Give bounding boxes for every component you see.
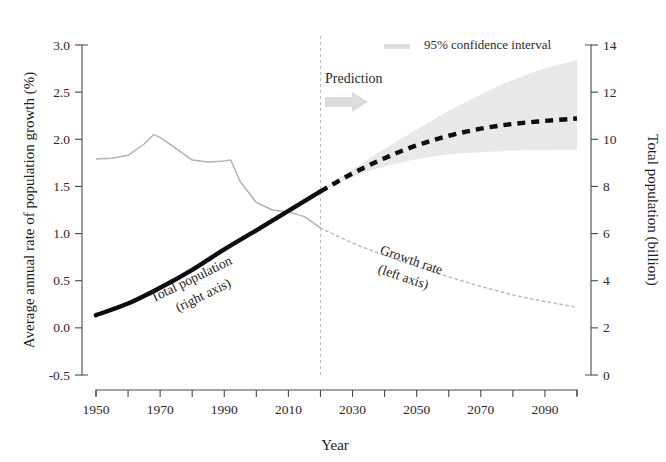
right-y-axis: 02468101214 [585, 38, 617, 383]
legend-label-confidence-interval: 95% confidence interval [424, 37, 551, 52]
right-y-axis-tick-labels: 02468101214 [603, 38, 617, 383]
right-y-tick-label: 14 [603, 38, 617, 53]
left-y-tick-label: -0.5 [49, 368, 71, 383]
right-y-axis-ticks [591, 45, 598, 375]
left-y-axis-tick-labels: -0.50.00.51.01.52.02.53.0 [49, 38, 71, 383]
left-y-tick-label: 0.5 [53, 273, 70, 288]
growth-rate-series-label: Growth rate (left axis) [376, 242, 444, 292]
left-y-axis: -0.50.00.51.01.52.02.53.0 [49, 38, 88, 383]
x-tick-label: 2090 [531, 402, 558, 417]
right-y-tick-label: 6 [603, 226, 610, 241]
total-population-series-label: Total population (right axis) [148, 253, 234, 315]
legend: 95% confidence interval [384, 37, 551, 52]
y2-axis-title: Total population (billion) [644, 134, 661, 285]
prediction-label: Prediction [325, 71, 383, 86]
right-y-tick-label: 2 [603, 320, 610, 335]
prediction-annotation: Prediction [325, 71, 383, 112]
x-tick-label: 2050 [403, 402, 430, 417]
right-y-tick-label: 10 [603, 132, 617, 147]
chart-canvas: -0.50.00.51.01.52.02.53.0 02468101214 19… [0, 0, 666, 462]
x-axis-tick-labels: 19501970199020102030205020702090 [83, 402, 559, 417]
left-y-tick-label: 1.0 [53, 226, 70, 241]
left-y-tick-label: 3.0 [53, 38, 70, 53]
x-tick-label: 1950 [83, 402, 110, 417]
x-tick-label: 2030 [339, 402, 366, 417]
left-y-tick-label: 2.0 [53, 132, 70, 147]
x-tick-label: 2010 [275, 402, 302, 417]
growth-rate-projected-line [320, 228, 577, 307]
population-growth-chart: -0.50.00.51.01.52.02.53.0 02468101214 19… [0, 0, 666, 462]
x-tick-label: 1970 [147, 402, 174, 417]
left-y-tick-label: 1.5 [53, 179, 70, 194]
prediction-arrow-icon [325, 92, 368, 112]
x-tick-label: 1990 [211, 402, 238, 417]
x-axis: 19501970199020102030205020702090 [83, 390, 578, 417]
x-axis-title: Year [321, 437, 349, 453]
left-y-tick-label: 0.0 [53, 320, 70, 335]
x-axis-ticks [96, 390, 577, 397]
legend-swatch-confidence-interval [384, 44, 410, 49]
right-y-tick-label: 8 [603, 179, 610, 194]
right-y-tick-label: 0 [603, 368, 610, 383]
y-axis-title: Average annual rate of population growth… [21, 72, 38, 348]
x-tick-label: 2070 [467, 402, 494, 417]
left-y-tick-label: 2.5 [53, 85, 70, 100]
right-y-tick-label: 4 [603, 273, 610, 288]
left-y-axis-ticks [75, 45, 82, 375]
right-y-tick-label: 12 [603, 85, 617, 100]
